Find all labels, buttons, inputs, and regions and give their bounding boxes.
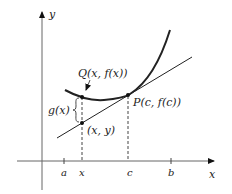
brace-icon	[73, 98, 79, 122]
point-P	[126, 93, 130, 97]
tick-label-c: c	[127, 167, 133, 178]
x-axis-label: x	[209, 168, 216, 181]
tick-label-x: x	[79, 167, 85, 178]
label-P: P(c, f(c))	[132, 96, 181, 109]
curve-f	[65, 30, 170, 100]
y-axis-label: y	[48, 8, 56, 21]
q-pointer-arrow	[86, 80, 90, 90]
label-Q: Q(x, f(x))	[78, 67, 128, 80]
diagram: y x a x c b Q(x, f(x)) P(c, f(c)) (x, y)…	[0, 0, 232, 194]
tick-label-b: b	[168, 167, 174, 178]
brace-label-g: g(x)	[48, 104, 70, 117]
label-line-point: (x, y)	[87, 124, 115, 137]
tick-label-a: a	[61, 167, 67, 178]
point-Q	[80, 95, 84, 99]
point-xy	[80, 121, 84, 125]
